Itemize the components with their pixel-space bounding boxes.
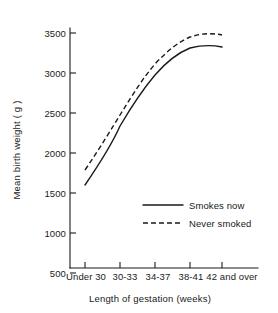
y-axis-ticks: [70, 33, 76, 273]
x-tick-label-42-and-over: 42 and over: [206, 271, 257, 282]
x-tick-label-under-30: Under 30: [66, 271, 106, 282]
legend-label-never-smoked: Never smoked: [189, 218, 251, 229]
y-tick-label-1000: 1000: [44, 228, 66, 239]
y-axis-title: Mean birth weight ( g ): [11, 100, 22, 199]
x-tick-label-38-41: 38-41: [179, 271, 204, 282]
y-tick-label-500: 500: [50, 268, 66, 279]
series-never-smoked: [85, 34, 222, 170]
chart-legend: Smokes now Never smoked: [143, 200, 251, 229]
line-chart: 3500 3000 2500 2000 1500 1000 500 Under …: [0, 0, 278, 313]
y-tick-label-3500: 3500: [44, 28, 66, 39]
legend-label-smokes-now: Smokes now: [189, 200, 244, 211]
x-axis-title: Length of gestation (weeks): [89, 293, 211, 304]
y-tick-label-2000: 2000: [44, 148, 66, 159]
x-tick-label-34-37: 34-37: [146, 271, 171, 282]
x-tick-label-30-33: 30-33: [113, 271, 138, 282]
y-tick-label-2500: 2500: [44, 108, 66, 119]
y-tick-label-1500: 1500: [44, 188, 66, 199]
y-tick-label-3000: 3000: [44, 68, 66, 79]
x-axis-ticks: [85, 262, 222, 268]
chart-figure: 3500 3000 2500 2000 1500 1000 500 Under …: [0, 0, 278, 313]
